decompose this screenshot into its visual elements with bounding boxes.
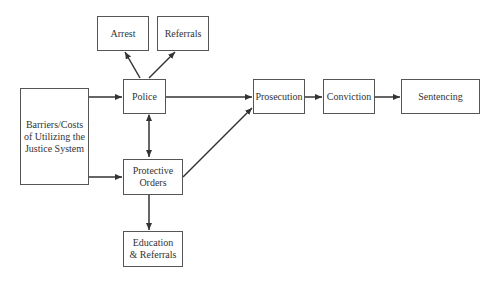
node-police: Police	[123, 79, 166, 114]
node-barriers: Barriers/Costs of Utilizing the Justice …	[20, 88, 89, 185]
flow-diagram: Arrest Referrals Police Barriers/Costs o…	[0, 0, 497, 281]
node-conviction: Conviction	[323, 79, 375, 114]
node-conviction-label: Conviction	[327, 91, 371, 103]
node-sentencing: Sentencing	[401, 79, 480, 114]
edge-protective-orders-prosecution	[183, 108, 252, 177]
node-protective-orders-label: Protective Orders	[133, 165, 174, 189]
node-referrals-label: Referrals	[165, 28, 202, 40]
node-prosecution: Prosecution	[253, 79, 305, 114]
node-protective-orders: Protective Orders	[123, 159, 183, 195]
node-education-referrals: Education & Referrals	[123, 231, 183, 267]
edge-police-referrals	[149, 52, 175, 78]
arrowhead-up-icon	[146, 114, 152, 121]
node-barriers-label: Barriers/Costs of Utilizing the Justice …	[24, 119, 85, 155]
node-police-label: Police	[132, 91, 157, 103]
node-sentencing-label: Sentencing	[418, 91, 462, 103]
edge-police-arrest	[125, 52, 140, 78]
node-arrest: Arrest	[97, 16, 149, 51]
node-prosecution-label: Prosecution	[255, 91, 302, 103]
node-education-label: Education & Referrals	[130, 237, 177, 261]
node-referrals: Referrals	[157, 16, 209, 51]
node-arrest-label: Arrest	[111, 28, 136, 40]
